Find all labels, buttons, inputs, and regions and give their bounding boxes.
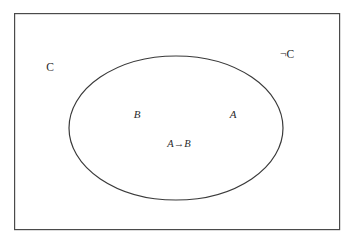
universe-rectangle xyxy=(15,14,340,230)
label-not-c: ¬C xyxy=(280,49,294,61)
logic-diagram: C ¬C B A A→B xyxy=(0,0,355,242)
label-c: C xyxy=(46,62,54,74)
context-ellipse xyxy=(69,56,283,200)
label-b: B xyxy=(134,109,141,120)
label-a: A xyxy=(230,109,237,120)
diagram-canvas xyxy=(0,0,355,242)
label-a-implies-b: A→B xyxy=(167,139,190,150)
